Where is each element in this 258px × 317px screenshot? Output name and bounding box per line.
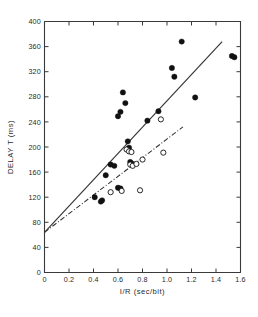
data-point-filled: [156, 109, 161, 114]
y-tick-label: 80: [33, 218, 41, 227]
figure-container: 0408012016020024028032036040000.20.40.60…: [0, 0, 258, 317]
y-tick-label: 320: [28, 67, 41, 76]
scatter-plot: 0408012016020024028032036040000.20.40.60…: [0, 0, 258, 317]
data-point-filled: [118, 109, 123, 114]
data-point-filled: [123, 100, 128, 105]
y-tick-label: 40: [33, 243, 41, 252]
data-point-filled: [192, 95, 197, 100]
data-point-open: [158, 117, 163, 122]
x-axis-title: I/R (sec/bit): [120, 287, 165, 296]
data-point-open: [108, 190, 113, 195]
x-tick-label: 0.6: [113, 275, 124, 284]
data-point-filled: [112, 163, 117, 168]
data-point-filled: [99, 198, 104, 203]
data-point-open: [137, 188, 142, 193]
data-point-filled: [232, 55, 237, 60]
series-open-circles: [108, 117, 166, 195]
data-point-open: [119, 188, 124, 193]
x-tick-label: 0.8: [137, 275, 148, 284]
data-point-filled: [145, 118, 150, 123]
y-axis-title: DELAY T (ms): [6, 120, 15, 174]
y-tick-label: 200: [28, 143, 41, 152]
data-point-filled: [169, 65, 174, 70]
y-tick-label: 160: [28, 168, 41, 177]
y-tick-label: 280: [28, 92, 41, 101]
x-tick-label: 0.4: [88, 275, 99, 284]
x-tick-label: 1.6: [235, 275, 246, 284]
data-point-filled: [92, 195, 97, 200]
data-point-filled: [120, 90, 125, 95]
x-tick-label: 0.2: [64, 275, 75, 284]
y-tick-label: 0: [37, 268, 41, 277]
axis-spines: [45, 22, 241, 273]
y-tick-label: 240: [28, 118, 41, 127]
dashdot-regression-line: [45, 127, 183, 232]
y-tick-label: 400: [28, 17, 41, 26]
data-point-filled: [103, 173, 108, 178]
x-tick-label: 0: [42, 275, 46, 284]
data-point-filled: [179, 39, 184, 44]
data-point-open: [129, 149, 134, 154]
axis-frame: [45, 22, 241, 273]
y-tick-label: 120: [28, 193, 41, 202]
data-point-open: [140, 157, 145, 162]
data-point-open: [161, 150, 166, 155]
solid-regression-line: [45, 42, 223, 233]
data-point-filled: [125, 139, 130, 144]
y-tick-label: 360: [28, 42, 41, 51]
data-point-filled: [172, 74, 177, 79]
x-tick-label: 1.0: [162, 275, 173, 284]
x-tick-label: 1.4: [211, 275, 222, 284]
data-point-open: [134, 161, 139, 166]
x-tick-label: 1.2: [186, 275, 197, 284]
